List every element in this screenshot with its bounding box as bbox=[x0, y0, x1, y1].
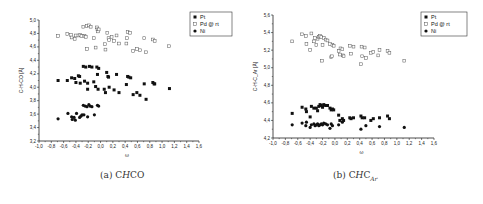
y-tick-label: 3,6 bbox=[30, 112, 37, 117]
legend-label: Pd @ rt bbox=[431, 21, 450, 27]
y-tick-label: 5,2 bbox=[264, 48, 271, 53]
y-tick-label: 4,8 bbox=[30, 31, 37, 36]
x-tick-label: 1,6 bbox=[196, 144, 203, 149]
series-pd-rt bbox=[57, 24, 171, 54]
x-tick-label: -0,6 bbox=[60, 144, 68, 149]
x-tick-label: 0,8 bbox=[381, 141, 388, 146]
legend-label: Pt bbox=[431, 14, 437, 20]
x-tick-label: -0,8 bbox=[282, 141, 290, 146]
x-tick-label: 1,0 bbox=[394, 141, 401, 146]
y-tick-label: 5,0 bbox=[30, 18, 37, 23]
x-tick-label: 0,6 bbox=[369, 141, 376, 146]
y-tick-label: 5,4 bbox=[264, 30, 271, 35]
x-tick-label: 1,6 bbox=[431, 141, 438, 146]
x-tick-label: 0,2 bbox=[110, 144, 117, 149]
y-tick-label: 3,2 bbox=[30, 139, 37, 144]
y-tick-label: 5,0 bbox=[264, 65, 271, 70]
x-tick-label: 1,4 bbox=[418, 141, 425, 146]
axes: -1,0-0,8-0,6-0,4-0,20,00,20,40,60,81,01,… bbox=[264, 13, 438, 146]
x-axis-title: ω bbox=[125, 152, 129, 158]
legend: PtPd @ rtNi bbox=[190, 12, 232, 36]
x-tick-label: -0,4 bbox=[72, 144, 80, 149]
y-tick-label: 4,0 bbox=[30, 85, 37, 90]
chart-panel-a: -1,0-0,8-0,6-0,4-0,20,00,20,40,60,81,01,… bbox=[0, 0, 241, 204]
y-axis-title: C-H-CO [Å] bbox=[18, 67, 24, 93]
x-tick-label: 0,8 bbox=[147, 144, 154, 149]
y-tick-label: 4,6 bbox=[30, 44, 37, 49]
legend-label: Ni bbox=[200, 28, 205, 34]
x-tick-label: 0,6 bbox=[134, 144, 141, 149]
legend-label: Pt bbox=[200, 14, 206, 20]
y-axis-title: C-H-C_Ar [Å] bbox=[252, 61, 258, 91]
caption-a: (a) CHCO bbox=[100, 170, 144, 180]
y-tick-label: 4,4 bbox=[264, 118, 271, 123]
caption-b: (b) CHCAr bbox=[333, 170, 377, 182]
y-tick-label: 4,2 bbox=[30, 71, 37, 76]
x-tick-label: 1,0 bbox=[159, 144, 166, 149]
x-tick-label: 0,4 bbox=[122, 144, 129, 149]
legend-label: Ni bbox=[431, 28, 436, 34]
series-pt bbox=[57, 65, 171, 101]
chart-panel-b: -1,0-0,8-0,6-0,4-0,20,00,20,40,60,81,01,… bbox=[241, 0, 482, 204]
y-tick-label: 4,2 bbox=[264, 136, 271, 141]
series-pd-rt bbox=[291, 32, 406, 66]
x-tick-label: -0,2 bbox=[84, 144, 92, 149]
x-tick-label: -0,4 bbox=[306, 141, 314, 146]
x-tick-label: -0,6 bbox=[294, 141, 302, 146]
y-tick-label: 3,8 bbox=[30, 98, 37, 103]
legend-label: Pd @ rt bbox=[200, 21, 219, 27]
y-tick-label: 4,8 bbox=[264, 83, 271, 88]
x-tick-label: 0,0 bbox=[332, 141, 339, 146]
x-tick-label: 1,2 bbox=[171, 144, 178, 149]
x-tick-label: -1,0 bbox=[269, 141, 277, 146]
x-tick-label: -0,8 bbox=[47, 144, 55, 149]
x-tick-label: 0,4 bbox=[357, 141, 364, 146]
y-tick-label: 4,6 bbox=[264, 100, 271, 105]
x-tick-label: -1,0 bbox=[35, 144, 43, 149]
x-tick-label: 0,2 bbox=[344, 141, 351, 146]
series-pt bbox=[291, 103, 391, 122]
series-ni bbox=[56, 103, 100, 122]
legend: PtPd @ rtNi bbox=[421, 12, 467, 36]
y-tick-label: 4,4 bbox=[30, 58, 37, 63]
x-tick-label: 0,0 bbox=[97, 144, 104, 149]
y-tick-label: 3,4 bbox=[30, 125, 37, 130]
series-ni bbox=[291, 121, 406, 131]
x-axis-title: ω bbox=[360, 149, 364, 155]
x-tick-label: 1,4 bbox=[184, 144, 191, 149]
x-tick-label: -0,2 bbox=[319, 141, 327, 146]
x-tick-label: 1,2 bbox=[406, 141, 413, 146]
axes: -1,0-0,8-0,6-0,4-0,20,00,20,40,60,81,01,… bbox=[30, 18, 203, 149]
y-tick-label: 5,6 bbox=[264, 13, 271, 18]
